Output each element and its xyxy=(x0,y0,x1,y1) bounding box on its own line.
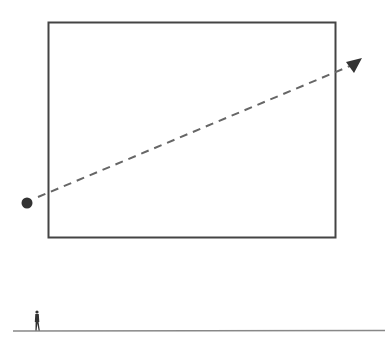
trajectory-dashed-line xyxy=(38,66,350,197)
start-point-dot xyxy=(22,198,33,209)
ground-line xyxy=(13,331,385,332)
human-figure-icon xyxy=(35,310,40,330)
arrowhead-icon xyxy=(346,58,362,73)
frame-rectangle xyxy=(49,23,336,238)
diagram-canvas xyxy=(0,0,391,353)
